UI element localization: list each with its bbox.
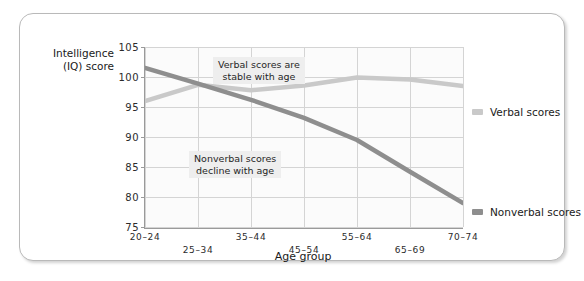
y-tick-label: 90 bbox=[125, 132, 139, 143]
y-axis-title-line1: Intelligence bbox=[53, 47, 114, 59]
y-axis-title-line2: (IQ) score bbox=[34, 60, 114, 73]
legend-item-nonverbal-scores: Nonverbal scores bbox=[472, 206, 581, 218]
y-tick-label: 95 bbox=[125, 102, 139, 113]
annotation-verbal-line1: Verbal scores are bbox=[218, 59, 300, 70]
gridline-horizontal bbox=[145, 227, 463, 228]
x-axis-title: Age group bbox=[144, 250, 462, 263]
plot-area: 758085909510010520–2425–3435–4445–5455–6… bbox=[144, 47, 463, 229]
y-tick-label: 100 bbox=[118, 72, 139, 83]
y-tick-mark bbox=[141, 227, 145, 228]
annotation-nonverbal-line1: Nonverbal scores bbox=[194, 153, 276, 164]
x-tick-label: 70–74 bbox=[448, 232, 478, 242]
legend-swatch-verbal bbox=[472, 109, 483, 115]
legend-label-nonverbal: Nonverbal scores bbox=[490, 206, 581, 218]
x-tick-label: 35–44 bbox=[236, 232, 266, 242]
x-tick-label: 20–24 bbox=[130, 232, 160, 242]
y-tick-label: 75 bbox=[125, 222, 139, 233]
annotation-verbal-scores: Verbal scores are stable with age bbox=[213, 57, 305, 84]
y-axis-title: Intelligence (IQ) score bbox=[34, 47, 114, 73]
legend-item-verbal-scores: Verbal scores bbox=[472, 106, 560, 118]
legend-label-verbal: Verbal scores bbox=[490, 106, 560, 118]
annotation-layer: Verbal scores are stable with age Nonver… bbox=[145, 47, 463, 227]
y-tick-label: 85 bbox=[125, 162, 139, 173]
gridline-vertical bbox=[463, 47, 464, 227]
annotation-nonverbal-scores: Nonverbal scores decline with age bbox=[189, 151, 281, 178]
annotation-verbal-line2: stable with age bbox=[222, 71, 295, 82]
x-tick-label: 55–64 bbox=[342, 232, 372, 242]
y-tick-label: 80 bbox=[125, 192, 139, 203]
chart-card: Intelligence (IQ) score 7580859095100105… bbox=[19, 13, 565, 261]
annotation-nonverbal-line2: decline with age bbox=[196, 165, 274, 176]
legend-swatch-nonverbal bbox=[472, 209, 483, 215]
y-tick-label: 105 bbox=[118, 42, 139, 53]
